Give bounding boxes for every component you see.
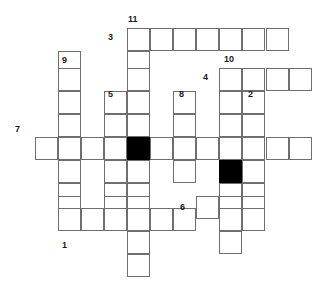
crossword-cell[interactable] — [266, 68, 289, 91]
crossword-cell[interactable] — [173, 160, 196, 183]
crossword-cell[interactable] — [196, 137, 219, 160]
crossword-cell[interactable] — [266, 137, 289, 160]
clue-number-2: 2 — [248, 89, 253, 99]
crossword-cell[interactable] — [127, 231, 150, 254]
crossword-cell[interactable] — [289, 68, 312, 91]
crossword-cell[interactable] — [58, 114, 81, 137]
crossword-cell[interactable] — [242, 160, 265, 183]
crossword-cell[interactable] — [150, 137, 173, 160]
crossword-cell[interactable] — [219, 231, 242, 254]
crossword-cell[interactable] — [127, 254, 150, 277]
clue-number-8: 8 — [179, 89, 184, 99]
crossword-cell[interactable] — [219, 114, 242, 137]
crossword-cell[interactable] — [104, 208, 127, 231]
crossword-cell[interactable] — [219, 137, 242, 160]
clue-number-3: 3 — [108, 32, 113, 42]
crossword-cell[interactable] — [242, 208, 265, 231]
crossword-cell[interactable] — [242, 114, 265, 137]
crossword-cell[interactable] — [104, 114, 127, 137]
crossword-cell[interactable] — [242, 68, 265, 91]
crossword-cell[interactable] — [289, 137, 312, 160]
crossword-blocked-cell — [219, 160, 242, 183]
crossword-cell[interactable] — [150, 208, 173, 231]
clue-number-5: 5 — [108, 89, 113, 99]
crossword-cell[interactable] — [219, 91, 242, 114]
crossword-cell[interactable] — [173, 91, 196, 114]
crossword-cell[interactable] — [127, 114, 150, 137]
crossword-cell[interactable] — [219, 68, 242, 91]
crossword-cell[interactable] — [173, 137, 196, 160]
crossword-blocked-cell — [127, 137, 150, 160]
clue-number-10: 10 — [224, 54, 234, 64]
clue-number-4: 4 — [203, 72, 208, 82]
crossword-cell[interactable] — [127, 91, 150, 114]
crossword-cell[interactable] — [58, 208, 81, 231]
crossword-cell[interactable] — [104, 160, 127, 183]
crossword-cell[interactable] — [58, 137, 81, 160]
crossword-cell[interactable] — [242, 28, 265, 51]
crossword-cell[interactable] — [196, 196, 219, 219]
crossword-cell[interactable] — [127, 28, 150, 51]
crossword-cell[interactable] — [219, 208, 242, 231]
crossword-cell[interactable] — [58, 68, 81, 91]
crossword-cell[interactable] — [127, 160, 150, 183]
crossword-cell[interactable] — [219, 28, 242, 51]
clue-number-9: 9 — [62, 55, 67, 65]
crossword-cell[interactable] — [242, 91, 265, 114]
crossword-cell[interactable] — [173, 28, 196, 51]
crossword-cell[interactable] — [242, 137, 265, 160]
crossword-cell[interactable] — [58, 160, 81, 183]
crossword-cell[interactable] — [150, 28, 173, 51]
clue-number-7: 7 — [15, 124, 20, 134]
clue-number-6: 6 — [180, 202, 185, 212]
crossword-cell[interactable] — [196, 28, 219, 51]
clue-number-11: 11 — [128, 14, 138, 24]
crossword-cell[interactable] — [127, 208, 150, 231]
crossword-cell[interactable] — [104, 137, 127, 160]
crossword-cell[interactable] — [266, 28, 289, 51]
clue-number-1: 1 — [62, 240, 67, 250]
crossword-cell[interactable] — [173, 114, 196, 137]
crossword-cell[interactable] — [58, 91, 81, 114]
crossword-cell[interactable] — [127, 68, 150, 91]
crossword-cell[interactable] — [81, 208, 104, 231]
crossword-cell[interactable] — [35, 137, 58, 160]
crossword-puzzle-grid: 1139104582761 — [0, 0, 330, 308]
crossword-cell[interactable] — [81, 137, 104, 160]
